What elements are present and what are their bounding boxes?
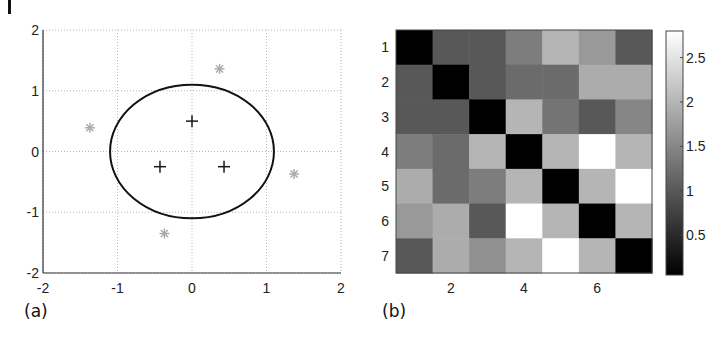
heatmap-y-tick-label: 1 [381, 39, 389, 55]
y-tick-label: 0 [31, 144, 39, 160]
heatmap-cell [396, 238, 433, 273]
heatmap-x-tick-label: 2 [447, 280, 455, 296]
heatmap-cell [615, 204, 652, 239]
heatmap-cell [579, 238, 616, 273]
x-tick-label: 0 [188, 280, 196, 296]
heatmap-cell [396, 169, 433, 204]
heatmap-cell [506, 238, 543, 273]
panel-label-a: (a) [24, 301, 48, 321]
y-tick-label: -1 [27, 204, 40, 220]
heatmap-cell [396, 134, 433, 169]
heatmap-cell [615, 134, 652, 169]
x-tick-label: 2 [337, 280, 345, 296]
heatmap-cell [396, 65, 433, 100]
heatmap-cell [396, 30, 433, 65]
colorbar-tick-label: 1 [686, 183, 694, 199]
heatmap-cell [615, 99, 652, 134]
heatmap-y-tick-label: 4 [381, 144, 389, 160]
colorbar-tick-label: 2.5 [686, 50, 706, 66]
heatmap-cell [615, 65, 652, 100]
colorbar-tick-label: 0.5 [686, 227, 706, 243]
heatmap-cell [615, 238, 652, 273]
heatmap-y-tick-label: 7 [381, 248, 389, 264]
cross-marker [154, 161, 166, 173]
heatmap-cell [469, 30, 506, 65]
heatmap-cell [469, 65, 506, 100]
heatmap-cells [396, 30, 653, 274]
colorbar: 0.511.522.5 [666, 31, 706, 275]
heatmap-cell [506, 204, 543, 239]
heatmap-x-tick-label: 6 [593, 280, 601, 296]
heatmap-cell [542, 204, 579, 239]
heatmap-cell [542, 169, 579, 204]
star-marker [85, 123, 95, 133]
corner-bar [8, 0, 11, 14]
heatmap-cell [469, 169, 506, 204]
heatmap-panel: 1234567246 0.511.522.5 (b) [381, 30, 705, 321]
heatmap-cell [579, 134, 616, 169]
star-marker [289, 169, 299, 179]
heatmap-cell [579, 65, 616, 100]
tick-labels: -2-1012-2-1012 [27, 22, 346, 296]
heatmap-cell [615, 30, 652, 65]
heatmap-cell [506, 169, 543, 204]
heatmap-cell [433, 65, 470, 100]
heatmap-cell [433, 238, 470, 273]
heatmap-cell [396, 204, 433, 239]
heatmap-cell [506, 99, 543, 134]
heatmap-y-tick-label: 3 [381, 109, 389, 125]
colorbar-tick-label: 2 [686, 94, 694, 110]
heatmap-cell [542, 134, 579, 169]
heatmap-cell [579, 169, 616, 204]
heatmap-cell [579, 30, 616, 65]
heatmap-cell [469, 204, 506, 239]
x-tick-label: -1 [111, 280, 124, 296]
heatmap-cell [506, 65, 543, 100]
scatter-plot-panel: -2-1012-2-1012 (a) [24, 22, 345, 321]
heatmap-cell [469, 134, 506, 169]
heatmap-x-tick-label: 4 [520, 280, 528, 296]
heatmap-cell [506, 134, 543, 169]
heatmap-cell [469, 99, 506, 134]
heatmap-cell [579, 99, 616, 134]
heatmap-cell [542, 238, 579, 273]
heatmap-cell [433, 204, 470, 239]
x-tick-label: -2 [37, 280, 50, 296]
y-tick-label: 1 [31, 83, 39, 99]
heatmap-cell [579, 204, 616, 239]
star-marker [159, 229, 169, 239]
heatmap-cell [433, 169, 470, 204]
heatmap-cell [396, 99, 433, 134]
star-marker [215, 64, 225, 74]
heatmap-cell [542, 99, 579, 134]
heatmap-cell [506, 30, 543, 65]
colorbar-gradient [666, 31, 683, 275]
heatmap-cell [433, 30, 470, 65]
x-tick-label: 1 [263, 280, 271, 296]
heatmap-cell [433, 134, 470, 169]
heatmap-cell [542, 65, 579, 100]
heatmap-cell [542, 30, 579, 65]
figure: -2-1012-2-1012 (a) 1234567246 0.511.522.… [0, 0, 725, 341]
colorbar-tick-label: 1.5 [686, 138, 706, 154]
panel-label-b: (b) [382, 301, 406, 321]
cross-marker [186, 115, 198, 127]
heatmap-y-tick-label: 6 [381, 213, 389, 229]
grid-lines [43, 30, 341, 273]
cross-marker [218, 161, 230, 173]
heatmap-y-tick-label: 5 [381, 178, 389, 194]
heatmap-cell [615, 169, 652, 204]
heatmap-cell [469, 238, 506, 273]
y-tick-label: -2 [27, 265, 40, 281]
y-tick-label: 2 [31, 22, 39, 38]
heatmap-cell [433, 99, 470, 134]
heatmap-y-tick-label: 2 [381, 74, 389, 90]
